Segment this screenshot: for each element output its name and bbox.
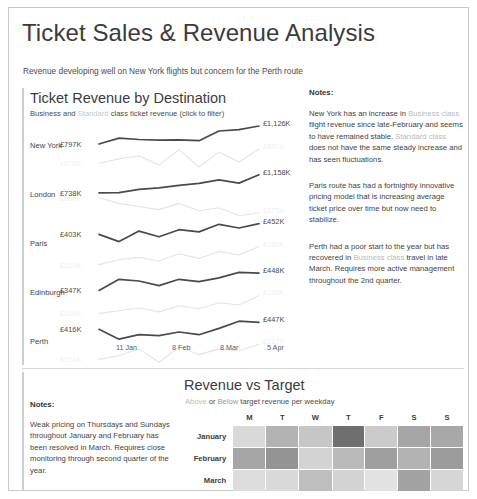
revenue-vs-target-subtitle[interactable]: Above or Below target revenue per weekda… [185,397,334,406]
end-value-label: £1,158K [263,168,291,177]
revenue-line-business[interactable] [99,224,259,242]
heatmap-cell[interactable] [266,426,298,447]
subtitle-tail-text: class ticket revenue (click to filter) [109,109,225,118]
notes-heading-bottom: Notes: [30,400,175,409]
note-highlight[interactable]: Standard class [395,132,446,141]
subtitle-business-text: Business and [30,109,78,118]
heatmap-cell[interactable] [266,448,298,469]
heatmap-cell[interactable] [333,470,365,491]
heatmap-cell[interactable] [233,470,265,491]
heatmap-cell[interactable] [299,426,331,447]
heatmap-cell[interactable] [398,470,430,491]
start-value-label: £416K [60,325,81,334]
page-subtitle: Revenue developing well on New York flig… [23,66,303,76]
heatmap-row: January [185,426,463,447]
x-axis-tick: 8 Mar [220,343,238,352]
legend-sep-text: or [207,397,218,406]
start-value-label: £347K [60,286,81,295]
start-value-label: £208K [60,309,81,318]
section-divider [22,368,464,369]
heatmap-column-header[interactable]: F [365,413,397,425]
revenue-line-standard[interactable] [99,198,259,216]
start-value-label: £220K [60,261,81,270]
heatmap-table[interactable]: MTWTFSSJanuaryFebruaryMarch [184,412,464,492]
heatmap-cell[interactable] [365,470,397,491]
revenue-line-business[interactable] [99,126,259,144]
heatmap-cell[interactable] [299,448,331,469]
x-axis-tick: 5 Apr [267,343,284,352]
heatmap-cell[interactable] [365,448,397,469]
note-paragraph: Paris route has had a fortnightly innova… [309,180,464,226]
heatmap-column-header[interactable]: M [233,413,265,425]
heatmap-row: February [185,448,463,469]
note-highlight[interactable]: Business class [353,253,404,262]
note-paragraph: Perth had a poor start to the year but h… [309,241,464,287]
revenue-line-business[interactable] [99,175,259,193]
end-value-label: £250K [263,240,284,249]
heatmap-cell[interactable] [431,448,463,469]
end-value-label: £601K [263,142,284,151]
heatmap-cell[interactable] [333,448,365,469]
revenue-line-standard[interactable] [99,149,259,167]
heatmap-corner [185,413,232,425]
heatmap-row: March [185,470,463,491]
notes-body-right: New York has an increase in Business cla… [309,108,464,286]
start-value-label: £201K [60,355,81,364]
x-axis-tick: 8 Feb [172,343,190,352]
end-value-label: £575K [263,206,284,215]
heatmap-cell[interactable] [431,470,463,491]
heatmap-column-header[interactable]: T [333,413,365,425]
revenue-line-business[interactable] [99,272,259,290]
start-value-label: £578K [60,159,81,168]
heatmap-cell[interactable] [266,470,298,491]
note-text: does not have the same steady increase a… [309,143,462,163]
end-value-label: £452K [263,217,284,226]
note-highlight[interactable]: Business class [408,109,459,118]
x-axis-tick: 11 Jan [116,343,137,352]
line-chart-area[interactable]: New York£797K£1,126K£578K£601KLondon£738… [24,121,303,365]
legend-below-label[interactable]: Below [218,397,239,406]
notes-body-bottom: Weak pricing on Thursdays and Sundays th… [30,419,175,476]
ticket-revenue-subtitle[interactable]: Business and Standard class ticket reven… [30,109,224,118]
revenue-line-standard[interactable] [99,295,259,313]
heatmap-column-header[interactable]: T [266,413,298,425]
heatmap-row-header[interactable]: February [185,448,232,469]
note-text: Paris route has had a fortnightly innova… [309,181,454,224]
destination-label[interactable]: New York [30,141,62,150]
notes-panel-right: Notes: New York has an increase in Busin… [309,88,464,365]
subtitle-standard-text[interactable]: Standard [78,109,109,118]
heatmap-cell[interactable] [398,426,430,447]
revenue-vs-target-panel: Revenue vs Target Above or Below target … [22,372,464,490]
heatmap-cell[interactable] [431,426,463,447]
revenue-line-standard[interactable] [99,247,259,265]
heatmap-cell[interactable] [365,426,397,447]
heatmap-row-header[interactable]: March [185,470,232,491]
destination-label[interactable]: Perth [30,337,48,346]
start-value-label: £403K [60,230,81,239]
end-value-label: £1,126K [263,119,291,128]
end-value-label: £447K [263,315,284,324]
ticket-revenue-panel: Ticket Revenue by Destination Business a… [22,88,301,365]
note-paragraph: New York has an increase in Business cla… [309,108,464,165]
notes-panel-bottom: Notes: Weak pricing on Thursdays and Sun… [30,400,175,476]
notes-heading-right: Notes: [309,88,464,97]
heatmap-cell[interactable] [299,470,331,491]
legend-tail-text: target revenue per weekday [238,397,334,406]
heatmap[interactable]: MTWTFSSJanuaryFebruaryMarch [184,412,464,492]
page-title: Ticket Sales & Revenue Analysis [22,19,375,47]
heatmap-row-header[interactable]: January [185,426,232,447]
heatmap-cell[interactable] [233,448,265,469]
heatmap-cell[interactable] [333,426,365,447]
heatmap-column-header[interactable]: S [431,413,463,425]
destination-label[interactable]: Paris [30,239,47,248]
heatmap-column-header[interactable]: S [398,413,430,425]
heatmap-cell[interactable] [233,426,265,447]
heatmap-cell[interactable] [398,448,430,469]
heatmap-header-row: MTWTFSS [185,413,463,425]
destination-label[interactable]: London [30,190,55,199]
revenue-vs-target-title: Revenue vs Target [184,377,305,393]
revenue-line-business[interactable] [99,321,259,339]
heatmap-column-header[interactable]: W [299,413,331,425]
legend-above-label[interactable]: Above [185,397,207,406]
start-value-label: £599K [60,194,81,203]
